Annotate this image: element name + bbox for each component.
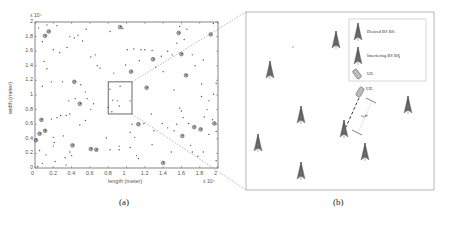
legend-interfering-label: Interfering BS BSⱼ [367,53,401,58]
legend-ue-label: UEᵢ [367,71,374,76]
ue-label: UEᵢ [366,86,373,91]
tower-icon [361,143,369,161]
tower-icon [297,162,305,180]
tower-icon [254,134,262,152]
caption-b: (b) [333,197,344,207]
distance-tick-top [366,98,376,103]
ue-phone-icon [355,86,364,97]
tower-icon [404,96,412,114]
distance-label: r₀ff [361,113,368,118]
tower-icon [266,61,274,79]
ue-bs-link [346,98,359,127]
legend-desired-label: Desired BS BSᵢ [367,29,395,34]
desired-bs-tower-icon [340,120,348,138]
distance-tick-bottom [352,130,362,135]
tower-icon [332,31,340,49]
tower-icon [297,106,305,124]
